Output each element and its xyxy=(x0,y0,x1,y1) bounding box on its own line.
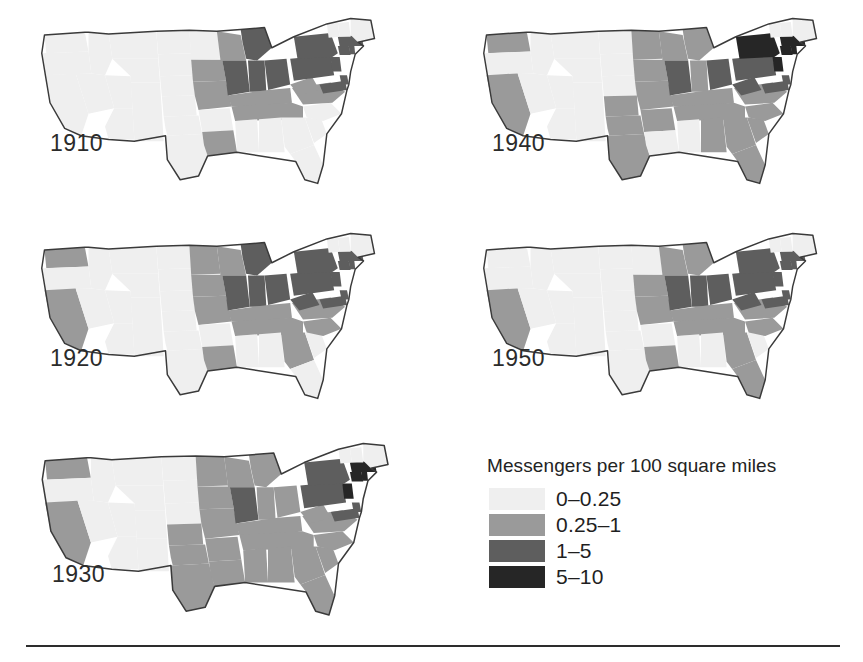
legend-label-0-025: 0–0.25 xyxy=(556,488,621,510)
state-al xyxy=(259,332,285,367)
state-la xyxy=(209,560,245,587)
state-mn xyxy=(196,456,228,486)
state-oh xyxy=(707,59,733,90)
state-wa xyxy=(487,32,531,53)
state-pa xyxy=(290,270,334,296)
state-pa xyxy=(732,270,776,296)
figure-small-multiples-maps: 1910 1940 1920 1950 1930 Messengers per … xyxy=(0,0,863,662)
state-ri xyxy=(349,46,355,54)
state-ar xyxy=(199,323,234,347)
state-ks xyxy=(604,310,639,331)
state-az xyxy=(105,108,134,139)
state-al xyxy=(701,117,727,152)
state-la xyxy=(644,345,679,371)
state-ar xyxy=(205,537,241,562)
state-co xyxy=(131,83,162,111)
state-nd xyxy=(598,30,633,54)
state-az xyxy=(547,323,576,354)
state-mt xyxy=(109,246,159,274)
year-label-1920: 1920 xyxy=(50,345,103,372)
state-ia xyxy=(191,275,226,297)
state-mi xyxy=(241,243,272,276)
state-la xyxy=(644,130,679,156)
state-ri xyxy=(361,472,368,481)
map-1940 xyxy=(470,18,855,193)
map-1930 xyxy=(28,443,428,625)
state-ri xyxy=(791,261,797,269)
state-vt xyxy=(327,23,340,38)
state-pa xyxy=(290,55,334,81)
state-mo xyxy=(635,296,674,325)
state-sd xyxy=(158,268,193,291)
state-mt xyxy=(112,457,163,486)
state-nh xyxy=(350,447,363,462)
swatch-1-5 xyxy=(489,540,545,562)
state-in xyxy=(690,276,708,307)
state-tx xyxy=(166,349,208,395)
state-az xyxy=(108,537,138,569)
state-ct xyxy=(780,46,793,55)
state-ms xyxy=(243,548,268,582)
state-co xyxy=(135,510,167,539)
bottom-rule xyxy=(26,645,840,647)
state-ok xyxy=(606,331,645,351)
state-ri xyxy=(791,46,797,54)
state-id xyxy=(531,247,555,290)
state-in xyxy=(248,61,266,92)
map-panel-1940: 1940 xyxy=(470,18,855,193)
state-la xyxy=(202,130,237,156)
year-label-1950: 1950 xyxy=(492,345,545,372)
state-ia xyxy=(633,275,668,297)
state-oh xyxy=(265,274,291,305)
state-mo xyxy=(199,508,239,538)
state-ia xyxy=(198,486,234,509)
state-co xyxy=(573,83,604,111)
map-panel-1950: 1950 xyxy=(470,233,855,408)
state-sd xyxy=(163,480,199,504)
state-la xyxy=(202,345,237,371)
state-mn xyxy=(189,245,220,274)
state-ms xyxy=(235,119,259,152)
state-wa xyxy=(45,32,89,53)
state-tx xyxy=(608,349,650,395)
legend-entries: 0–0.25 0.25–1 1–5 5–10 xyxy=(489,486,827,590)
map-panel-1930: 1930 xyxy=(28,443,428,625)
state-mt xyxy=(109,31,159,59)
state-mi xyxy=(249,453,281,487)
state-id xyxy=(89,247,113,290)
state-nd xyxy=(161,456,197,481)
legend-entry-5-10: 5–10 xyxy=(489,564,827,590)
state-tx xyxy=(608,134,650,180)
state-mi xyxy=(683,28,714,61)
state-oh xyxy=(707,274,733,305)
state-nh xyxy=(338,237,351,252)
state-ct xyxy=(338,46,351,55)
state-or xyxy=(42,266,92,290)
state-mi xyxy=(683,243,714,276)
state-ok xyxy=(169,544,209,565)
state-mt xyxy=(551,31,601,59)
state-oh xyxy=(265,59,291,90)
state-nd xyxy=(598,245,633,269)
state-or xyxy=(42,51,92,75)
state-oh xyxy=(274,485,301,517)
state-wa xyxy=(45,458,91,480)
state-nh xyxy=(780,237,793,252)
state-ar xyxy=(199,108,234,132)
legend-label-025-1: 0.25–1 xyxy=(556,514,621,536)
state-id xyxy=(89,32,113,75)
state-mo xyxy=(635,81,674,110)
map-panel-1920: 1920 xyxy=(28,233,413,408)
legend-entry-0-025: 0–0.25 xyxy=(489,486,827,512)
state-nd xyxy=(156,30,191,54)
state-ct xyxy=(338,261,351,270)
state-nj xyxy=(331,57,342,72)
state-ok xyxy=(164,116,203,136)
state-ks xyxy=(604,95,639,116)
state-or xyxy=(42,478,93,503)
state-az xyxy=(547,108,576,139)
state-ks xyxy=(167,524,203,546)
year-label-1930: 1930 xyxy=(52,561,105,588)
state-mn xyxy=(189,30,220,59)
state-in xyxy=(248,276,266,307)
